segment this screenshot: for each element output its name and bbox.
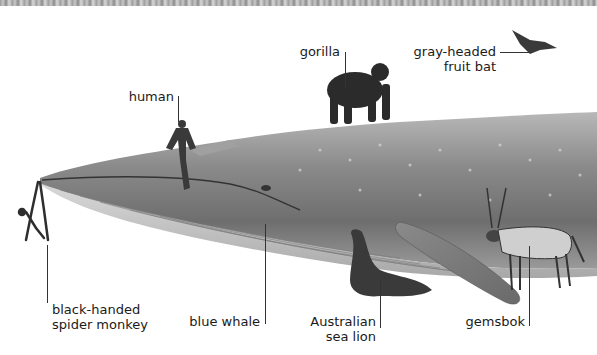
label-gemsbok: gemsbok <box>455 314 525 329</box>
label-bat-line2: fruit bat <box>400 59 496 74</box>
label-monkey-line1: black-handed <box>52 302 148 317</box>
fruit-bat-icon <box>512 30 557 54</box>
leader-gorilla <box>345 52 346 88</box>
label-sealion-line2: sea lion <box>296 329 376 344</box>
label-bat: gray-headed fruit bat <box>400 44 496 74</box>
label-bat-line1: gray-headed <box>400 44 496 59</box>
leader-gemsbok <box>529 246 530 326</box>
spider-monkey-icon <box>19 182 48 240</box>
label-blue-whale: blue whale <box>170 314 260 329</box>
label-sea-lion: Australian sea lion <box>296 314 376 344</box>
leader-blue-whale <box>265 224 266 324</box>
blue-whale-icon <box>40 112 597 304</box>
gorilla-icon <box>327 63 390 124</box>
leader-bat <box>500 52 532 53</box>
leader-sea-lion <box>380 280 381 328</box>
label-gorilla: gorilla <box>290 44 340 59</box>
leader-human <box>178 96 179 122</box>
label-spider-monkey: black-handed spider monkey <box>52 302 148 332</box>
leader-monkey <box>47 245 48 303</box>
label-sealion-line1: Australian <box>296 314 376 329</box>
label-human: human <box>120 89 174 104</box>
label-monkey-line2: spider monkey <box>52 317 148 332</box>
